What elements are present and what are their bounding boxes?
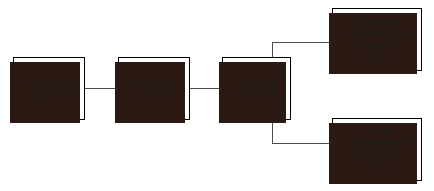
connector-disposal-to-incineration-run bbox=[272, 42, 333, 43]
node-generation-value: (262,030) bbox=[28, 89, 71, 100]
connector-recovery-to-disposal bbox=[190, 88, 222, 89]
node-incineration-label-line-2: percentage of bbox=[351, 28, 404, 40]
node-landfill-label-line-3: generation bbox=[351, 150, 404, 162]
node-landfill-value: (50.5) bbox=[351, 161, 404, 173]
node-disposal-label: Disposal bbox=[238, 78, 275, 89]
node-incineration-text: Incineration percentage of generation (1… bbox=[351, 17, 404, 63]
node-disposal-value: (170,330) bbox=[238, 89, 275, 100]
connector-disposal-to-landfill-run bbox=[272, 143, 333, 144]
node-generation-label: Generation bbox=[28, 78, 71, 89]
node-landfill: Landfill percentage of generation (50.5) bbox=[332, 118, 422, 181]
node-incineration-value: (14.5) bbox=[351, 51, 404, 63]
node-generation: Generation (262,030) bbox=[13, 57, 85, 120]
node-disposal-text: Disposal (170,330) bbox=[238, 78, 275, 99]
node-recovery-text: Recovery (91,700) bbox=[136, 78, 172, 99]
waste-flow-diagram: Generation (262,030) Recovery (91,700) D… bbox=[0, 0, 434, 191]
connector-generation-to-recovery bbox=[85, 88, 118, 89]
node-landfill-label-line-1: Landfill bbox=[351, 127, 404, 139]
node-recovery: Recovery (91,700) bbox=[118, 57, 190, 120]
node-incineration-label-line-3: generation bbox=[351, 40, 404, 52]
node-recovery-label: Recovery bbox=[136, 78, 172, 89]
node-disposal: Disposal (170,330) bbox=[222, 57, 291, 120]
node-landfill-label-line-2: percentage of bbox=[351, 138, 404, 150]
node-incineration-label-line-1: Incineration bbox=[351, 17, 404, 29]
node-landfill-text: Landfill percentage of generation (50.5) bbox=[351, 127, 404, 173]
node-generation-text: Generation (262,030) bbox=[28, 78, 71, 99]
connector-disposal-to-incineration-riser bbox=[272, 42, 273, 58]
node-incineration: Incineration percentage of generation (1… bbox=[332, 8, 422, 71]
node-recovery-value: (91,700) bbox=[136, 89, 172, 100]
